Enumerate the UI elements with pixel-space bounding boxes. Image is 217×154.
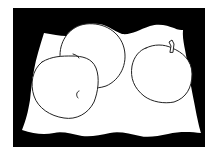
still-life-drawing [0, 0, 217, 154]
